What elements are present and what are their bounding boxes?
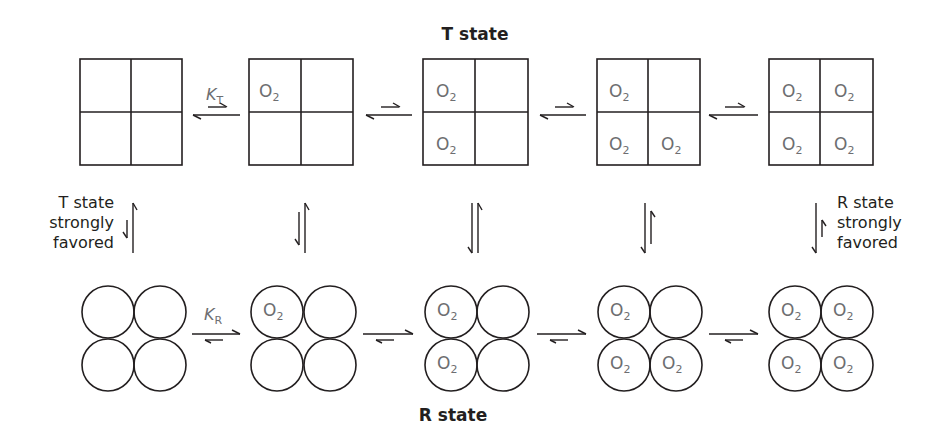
o2-label: O2 <box>437 300 457 323</box>
t-state-4-bound: O2 O2 O2 O2 <box>769 59 873 165</box>
equilibrium-arrow-icon <box>709 330 758 343</box>
o2-label: O2 <box>781 353 801 376</box>
svg-text:R state: R state <box>837 193 894 212</box>
r-state-3-bound: O2 O2 O2 <box>598 286 702 391</box>
equilibrium-arrow-icon <box>540 103 586 119</box>
equilibrium-arrow-icon <box>123 203 137 253</box>
o2-label: O2 <box>436 134 456 157</box>
r-row-equilibrium-arrows <box>192 330 758 343</box>
o2-label: O2 <box>437 353 457 376</box>
o2-label: O2 <box>610 300 630 323</box>
o2-label: O2 <box>782 81 802 104</box>
r-state-row: O2 O2 O2 O2 O2 O2 O2 O2 <box>82 286 873 391</box>
equilibrium-arrow-icon <box>709 103 758 119</box>
t-state-1-bound: O2 <box>249 59 353 165</box>
vertical-equilibrium-arrows <box>123 203 826 253</box>
o2-label: O2 <box>609 134 629 157</box>
o2-label: O2 <box>833 300 853 323</box>
svg-text:T state: T state <box>58 193 114 212</box>
equilibrium-arrow-icon <box>468 203 482 253</box>
o2-label: O2 <box>834 81 854 104</box>
svg-text:favored: favored <box>53 233 114 252</box>
r-state-favored-note: R state strongly favored <box>837 193 902 252</box>
t-state-row: O2 O2 O2 O2 O2 O2 O2 O2 O2 O2 <box>80 59 873 165</box>
equilibrium-arrow-icon <box>537 330 586 343</box>
o2-label: O2 <box>782 134 802 157</box>
equilibrium-arrow-icon <box>295 203 309 253</box>
t-state-favored-note: T state strongly favored <box>49 193 114 252</box>
svg-text:favored: favored <box>837 233 898 252</box>
t-state-2-bound: O2 O2 <box>423 59 528 165</box>
o2-label: O2 <box>781 300 801 323</box>
r-state-title: R state <box>419 405 487 425</box>
allosteric-model-diagram: T state R state O2 O2 O2 O2 <box>0 0 950 439</box>
equilibrium-arrow-icon <box>812 203 826 253</box>
o2-label: O2 <box>834 134 854 157</box>
equilibrium-arrow-icon <box>192 330 240 343</box>
r-state-2-bound: O2 O2 <box>425 286 529 391</box>
o2-label: O2 <box>610 353 630 376</box>
t-state-0-bound <box>80 59 182 165</box>
k-r-label: KR <box>204 305 223 327</box>
equilibrium-arrow-icon <box>366 103 412 119</box>
svg-text:strongly: strongly <box>837 213 902 232</box>
o2-label: O2 <box>259 81 279 104</box>
o2-label: O2 <box>662 353 682 376</box>
o2-label: O2 <box>833 353 853 376</box>
o2-label: O2 <box>436 81 456 104</box>
svg-text:strongly: strongly <box>49 213 114 232</box>
o2-label: O2 <box>263 300 283 323</box>
r-state-1-bound: O2 <box>251 286 356 391</box>
r-state-0-bound <box>82 286 186 391</box>
o2-label: O2 <box>661 134 681 157</box>
t-state-3-bound: O2 O2 O2 <box>597 59 700 165</box>
equilibrium-arrow-icon <box>641 203 655 253</box>
equilibrium-arrow-icon <box>363 330 413 343</box>
o2-label: O2 <box>609 81 629 104</box>
t-state-title: T state <box>442 24 509 44</box>
r-state-4-bound: O2 O2 O2 O2 <box>769 286 873 391</box>
